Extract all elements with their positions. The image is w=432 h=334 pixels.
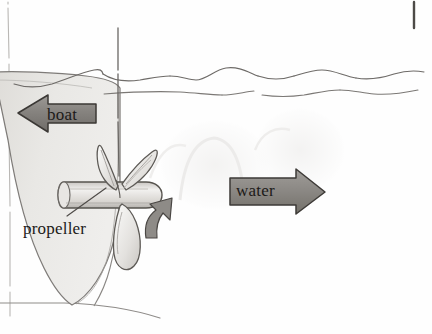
boat-label: boat (47, 105, 77, 125)
waterline-wave-lower (104, 90, 418, 97)
thrust-arrow (145, 198, 172, 238)
propeller-label: propeller (23, 219, 86, 239)
pencil-drawing (0, 0, 432, 334)
water-label: water (236, 181, 275, 201)
margin-rule-left (8, 2, 10, 316)
sketch-canvas: boat water propeller (0, 0, 432, 334)
margin-rule-bottom (0, 303, 160, 318)
